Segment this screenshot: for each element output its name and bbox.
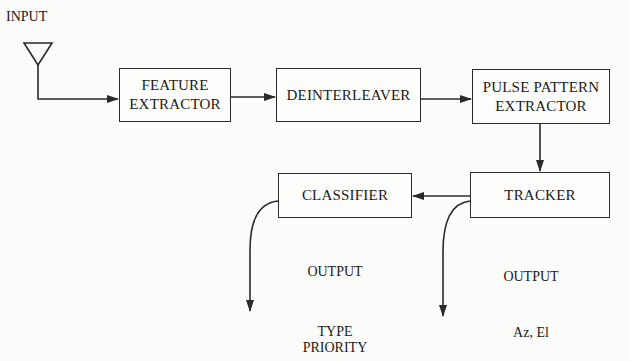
block-label-line: CLASSIFIER [302,186,388,205]
classifier-output-value: PRIORITY [290,339,380,357]
arrow-tracker-output [443,201,470,316]
tracker-output-heading: OUTPUT [486,268,576,286]
tracker-block: TRACKER [470,172,610,218]
antenna-icon [24,43,118,99]
block-label-line: TRACKER [504,186,575,205]
tracker-output-value: Az, El [486,324,576,342]
arrow-classifier-output [250,201,278,311]
block-label-line: EXTRACTOR [495,97,587,116]
classifier-output-heading: OUTPUT [290,263,380,281]
input-label: INPUT [6,8,47,26]
block-label-line: PULSE PATTERN [483,78,600,97]
feature-extractor-block: FEATURE EXTRACTOR [119,68,231,122]
pulse-pattern-extractor-block: PULSE PATTERN EXTRACTOR [472,69,610,124]
classifier-block: CLASSIFIER [278,173,412,218]
block-label-line: FEATURE [141,76,208,95]
deinterleaver-block: DEINTERLEAVER [276,68,421,122]
block-label-line: DEINTERLEAVER [287,86,411,105]
block-label-line: EXTRACTOR [129,95,221,114]
